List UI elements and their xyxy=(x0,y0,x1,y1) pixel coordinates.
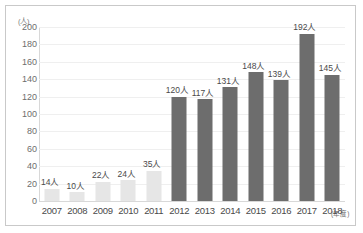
bar[interactable] xyxy=(325,75,340,201)
bar-value-label: 10人 xyxy=(67,182,85,191)
bar-value-label: 117人 xyxy=(192,89,215,98)
y-axis-tick-label: 20 xyxy=(11,179,37,188)
bar-slot: 131人 xyxy=(218,27,244,201)
bar-slot: 148人 xyxy=(243,27,269,201)
y-axis-tick-label: 80 xyxy=(11,127,37,136)
bar[interactable] xyxy=(121,180,136,201)
y-axis-tick-label: 40 xyxy=(11,162,37,171)
x-axis-tick-label: 2012 xyxy=(167,206,193,216)
bar-chart: (人) 200180160140120100806040200 14人10人22… xyxy=(6,6,355,225)
x-axis-tick-label: 2014 xyxy=(218,206,244,216)
bar-slot: 35人 xyxy=(141,27,167,201)
x-axis-tick-label: 2018 xyxy=(320,206,346,216)
y-axis-tick-label: 180 xyxy=(11,40,37,49)
bar-slot: 192人 xyxy=(294,27,320,201)
bar-slot: 24人 xyxy=(116,27,142,201)
bar[interactable] xyxy=(223,87,238,201)
x-axis-tick-label: 2007 xyxy=(39,206,65,216)
y-axis-tick-label: 140 xyxy=(11,75,37,84)
x-axis-tick-label: 2009 xyxy=(90,206,116,216)
bar-value-label: 145人 xyxy=(319,64,342,73)
bar-slot: 120人 xyxy=(167,27,193,201)
bar-slot: 117人 xyxy=(192,27,218,201)
x-axis-tick-label: 2013 xyxy=(192,206,218,216)
bar-value-label: 22人 xyxy=(92,171,110,180)
x-axis-tick-label: 2011 xyxy=(141,206,167,216)
y-axis-tick-label: 60 xyxy=(11,144,37,153)
x-axis-tick-label: 2008 xyxy=(65,206,91,216)
y-axis-tick-label: 0 xyxy=(11,197,37,206)
y-axis-tick-labels: 200180160140120100806040200 xyxy=(6,27,37,201)
bar-slot: 139人 xyxy=(269,27,295,201)
x-axis-tick-label: 2015 xyxy=(243,206,269,216)
bar-value-label: 192人 xyxy=(293,23,316,32)
bar-slot: 22人 xyxy=(90,27,116,201)
bar-value-label: 120人 xyxy=(166,86,189,95)
x-axis-tick-label: 2017 xyxy=(294,206,320,216)
bar-value-label: 148人 xyxy=(242,62,265,71)
bar-slot: 145人 xyxy=(320,27,346,201)
y-axis-tick-label: 200 xyxy=(11,23,37,32)
x-axis-tick-label: 2010 xyxy=(116,206,142,216)
bar-value-label: 139人 xyxy=(268,70,291,79)
bar[interactable] xyxy=(95,182,110,201)
bar[interactable] xyxy=(197,99,212,201)
bar[interactable] xyxy=(274,80,289,201)
y-axis-tick-label: 100 xyxy=(11,110,37,119)
gridline xyxy=(39,201,345,202)
y-axis-tick-label: 120 xyxy=(11,92,37,101)
y-axis-tick-label: 160 xyxy=(11,57,37,66)
bar-slot: 14人 xyxy=(39,27,65,201)
bar[interactable] xyxy=(172,97,187,201)
bar[interactable] xyxy=(299,34,314,201)
bar-value-label: 35人 xyxy=(143,160,161,169)
bar[interactable] xyxy=(44,189,59,201)
chart-frame: (人) 200180160140120100806040200 14人10人22… xyxy=(5,5,356,226)
bar-slot: 10人 xyxy=(65,27,91,201)
bar-value-label: 131人 xyxy=(217,77,240,86)
bar-value-label: 14人 xyxy=(41,178,59,187)
bar[interactable] xyxy=(146,171,161,201)
x-axis-tick-label: 2016 xyxy=(269,206,295,216)
bar[interactable] xyxy=(248,72,263,201)
bar[interactable] xyxy=(70,192,85,201)
plot-area: 14人10人22人24人35人120人117人131人148人139人192人1… xyxy=(39,27,345,201)
bar-value-label: 24人 xyxy=(118,170,136,179)
